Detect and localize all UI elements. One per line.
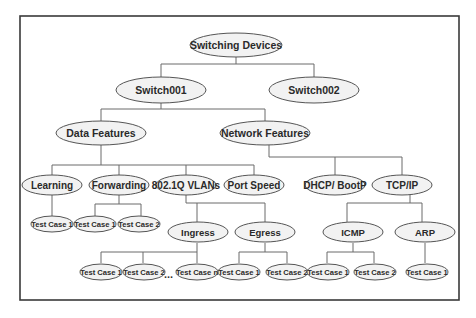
node-learning-test-case-1: Test Case 1 bbox=[31, 216, 74, 232]
node-arp: ARP bbox=[395, 222, 455, 242]
node-switch002: Switch002 bbox=[269, 77, 359, 103]
svg-text:Test Case n: Test Case n bbox=[176, 268, 218, 277]
node-forwarding: Forwarding bbox=[89, 175, 149, 195]
node-switch001: Switch001 bbox=[116, 77, 206, 103]
node-arp-test-case-1: Test Case 1 bbox=[406, 264, 449, 280]
node-switching-devices: Switching Devices bbox=[190, 33, 282, 57]
node-ingress-test-case-1: Test Case 1 bbox=[80, 264, 123, 280]
node-ingress: Ingress bbox=[168, 222, 228, 242]
svg-text:Test Case 2: Test Case 2 bbox=[354, 268, 396, 277]
node-tcp-ip: TCP/IP bbox=[372, 175, 432, 195]
svg-text:ARP: ARP bbox=[415, 227, 436, 238]
node-learning: Learning bbox=[22, 175, 82, 195]
node-network-features: Network Features bbox=[220, 121, 310, 145]
svg-text:Test Case 1: Test Case 1 bbox=[307, 268, 349, 277]
svg-text:Forwarding: Forwarding bbox=[92, 180, 146, 191]
svg-text:DHCP/ BootP: DHCP/ BootP bbox=[303, 180, 367, 191]
node-802-1q-vlans: 802.1Q VLANs bbox=[152, 175, 221, 195]
svg-text:Test Case 1: Test Case 1 bbox=[406, 268, 448, 277]
node-egress-test-case-2: Test Case 2 bbox=[266, 264, 308, 280]
node-icmp: ICMP bbox=[323, 222, 383, 242]
node-ingress-test-case-2: Test Case 2 bbox=[123, 264, 165, 280]
svg-text:Ingress: Ingress bbox=[181, 227, 215, 238]
svg-text:802.1Q VLANs: 802.1Q VLANs bbox=[152, 180, 221, 191]
node-forwarding-test-case-2: Test Case 2 bbox=[118, 216, 160, 232]
node-egress-test-case-1: Test Case 1 bbox=[218, 264, 261, 280]
node-icmp-test-case-1: Test Case 1 bbox=[307, 264, 350, 280]
svg-text:Test Case 1: Test Case 1 bbox=[218, 268, 260, 277]
svg-text:Network Features: Network Features bbox=[221, 127, 309, 139]
svg-text:Learning: Learning bbox=[31, 180, 73, 191]
svg-text:Test Case 1: Test Case 1 bbox=[74, 220, 116, 229]
svg-text:TCP/IP: TCP/IP bbox=[386, 180, 419, 191]
node-dhcp-bootp: DHCP/ BootP bbox=[303, 175, 367, 195]
svg-text:Test Case 2: Test Case 2 bbox=[118, 220, 160, 229]
svg-text:Test Case 1: Test Case 1 bbox=[31, 220, 73, 229]
node-data-features: Data Features bbox=[56, 121, 146, 145]
svg-text:Switch002: Switch002 bbox=[288, 84, 340, 96]
test-case-tree-diagram: Switching Devices Switch001 Switch002 Da… bbox=[0, 0, 476, 318]
svg-text:Switching Devices: Switching Devices bbox=[190, 39, 282, 51]
svg-text:Test Case 2: Test Case 2 bbox=[266, 268, 308, 277]
svg-text:Egress: Egress bbox=[249, 227, 281, 238]
svg-text:Data Features: Data Features bbox=[66, 127, 136, 139]
svg-text:Test Case 1: Test Case 1 bbox=[80, 268, 122, 277]
svg-text:Switch001: Switch001 bbox=[135, 84, 187, 96]
node-port-speed: Port Speed bbox=[224, 175, 284, 195]
ellipsis-more-test-cases: ... bbox=[164, 268, 173, 280]
svg-text:ICMP: ICMP bbox=[341, 227, 365, 238]
node-ingress-test-case-n: Test Case n bbox=[176, 264, 218, 280]
node-icmp-test-case-2: Test Case 2 bbox=[354, 264, 396, 280]
node-forwarding-test-case-1: Test Case 1 bbox=[74, 216, 117, 232]
svg-text:Test Case 2: Test Case 2 bbox=[123, 268, 165, 277]
node-egress: Egress bbox=[235, 222, 295, 242]
svg-text:Port Speed: Port Speed bbox=[228, 180, 281, 191]
